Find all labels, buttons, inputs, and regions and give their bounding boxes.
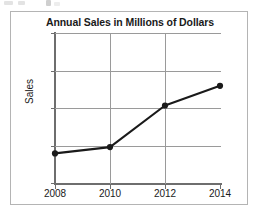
- chart-title: Annual Sales in Millions of Dollars: [11, 16, 249, 28]
- sales-line-series: [55, 33, 221, 184]
- cropped-text-artifact: [0, 0, 258, 9]
- data-point-marker: [162, 102, 168, 108]
- artifact-mark-1: [4, 1, 13, 5]
- artifact-mark-2: [18, 1, 25, 5]
- chart-figure: Annual Sales in Millions of Dollars Sale…: [10, 11, 248, 205]
- x-tick-label: 2008: [30, 188, 80, 199]
- x-tick-label: 2012: [140, 188, 190, 199]
- x-tick-label: 2014: [195, 188, 245, 199]
- x-tick-label: 2010: [85, 188, 135, 199]
- series-polyline: [55, 86, 220, 154]
- y-axis-title: Sales: [24, 79, 35, 104]
- data-point-marker: [52, 150, 58, 156]
- data-point-marker: [217, 83, 223, 89]
- artifact-mark-3: [46, 0, 51, 6]
- data-point-marker: [107, 144, 113, 150]
- plot-area: 5042.53527.5102008201020122014: [55, 33, 221, 184]
- artifact-mark-4: [54, 2, 60, 6]
